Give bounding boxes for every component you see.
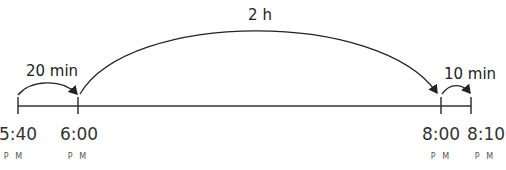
pm-label-600: P M xyxy=(68,152,88,161)
pm-label-540: P M xyxy=(4,152,24,161)
time-label-540: 5:40 xyxy=(0,124,37,144)
time-label-800: 8:00 xyxy=(422,124,460,144)
pm-label-800: P M xyxy=(431,152,451,161)
jump-arc-2-h xyxy=(80,31,437,94)
jump-label-20-min: 20 min xyxy=(26,62,78,80)
time-label-600: 6:00 xyxy=(60,124,98,144)
jump-arc-20-min xyxy=(18,83,77,95)
pm-label-810: P M xyxy=(475,152,495,161)
jump-label-10-min: 10 min xyxy=(444,65,496,83)
time-label-810: 8:10 xyxy=(467,124,505,144)
number-line-diagram xyxy=(0,0,506,170)
jump-arc-10-min xyxy=(442,86,470,94)
jump-label-2-h: 2 h xyxy=(248,6,272,24)
